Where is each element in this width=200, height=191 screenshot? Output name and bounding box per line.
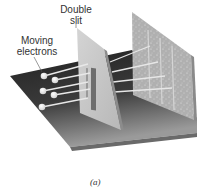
electron	[51, 92, 58, 99]
slit-opening	[91, 68, 96, 111]
label-double-slit: Double slit	[56, 4, 96, 26]
electron	[39, 104, 46, 111]
figure-caption: (a)	[90, 177, 101, 187]
electron	[52, 77, 59, 84]
electron	[41, 73, 48, 80]
slit-opening-2	[86, 68, 88, 98]
label-moving-electrons: Moving electrons	[12, 35, 62, 57]
electron	[40, 88, 47, 95]
leader-line-electrons	[34, 57, 42, 72]
double-slit-diagram	[0, 0, 200, 191]
